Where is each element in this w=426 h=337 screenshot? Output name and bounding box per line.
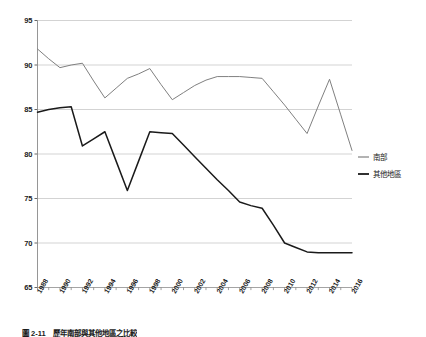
x-axis-label-1994: 1994 (103, 277, 117, 294)
figure-caption: 圖 2-11 歷年南部與其他地區之比較 (22, 329, 137, 337)
x-axis-label-1992: 1992 (80, 277, 94, 294)
x-axis-label-2016: 2016 (350, 277, 364, 294)
x-axis-label-2004: 2004 (215, 277, 229, 294)
x-axis-label-2000: 2000 (170, 277, 184, 294)
x-axis-label-2014: 2014 (328, 277, 342, 294)
x-axis-label-2012: 2012 (305, 277, 319, 294)
y-axis-label-80: 80 (24, 150, 32, 159)
series-line-1 (38, 49, 353, 150)
legend-label-1: 南部 (373, 152, 388, 162)
chart-figure: 6570758085909519881990199219941996199820… (0, 0, 426, 337)
x-axis-label-1990: 1990 (58, 277, 72, 294)
y-axis-label-85: 85 (24, 105, 32, 114)
legend-label-2: 其他地區 (373, 169, 402, 179)
y-axis-label-65: 65 (24, 283, 32, 292)
y-axis-label-95: 95 (24, 16, 32, 25)
series-line-2 (38, 107, 353, 253)
x-axis-label-1998: 1998 (148, 277, 162, 294)
y-axis-label-70: 70 (24, 239, 32, 248)
line-chart: 6570758085909519881990199219941996199820… (0, 0, 426, 337)
y-axis-label-90: 90 (24, 61, 32, 70)
x-axis-label-2008: 2008 (260, 277, 274, 294)
x-axis-label-2006: 2006 (238, 277, 252, 294)
x-axis-label-2002: 2002 (193, 277, 207, 294)
x-axis-label-1996: 1996 (125, 277, 139, 294)
x-axis-label-2010: 2010 (283, 277, 297, 294)
y-axis-label-75: 75 (24, 194, 32, 203)
